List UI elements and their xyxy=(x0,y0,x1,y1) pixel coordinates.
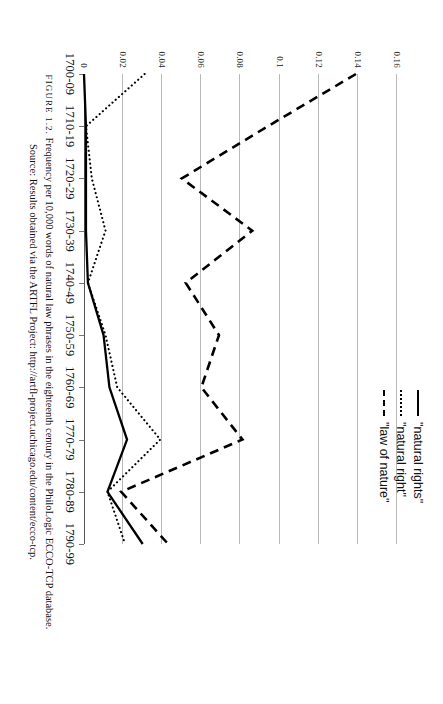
y-tick-label: 0 xyxy=(79,63,89,68)
x-tick-label: 1790-99 xyxy=(62,523,77,565)
x-tick-label: 1710-19 xyxy=(62,105,77,147)
figure-caption: FIGURE 1.2. Frequency per 10,000 words o… xyxy=(24,46,57,658)
solid-line-key-icon xyxy=(418,390,420,416)
series-lines xyxy=(84,74,397,544)
x-tick-label: 1730-39 xyxy=(62,209,77,251)
figure-page: 00.020.040.060.080.10.120.140.16 1700-09… xyxy=(0,0,443,704)
y-tick-label: 0.08 xyxy=(236,51,246,68)
legend-item-law-of-nature: "law of nature" xyxy=(376,390,393,503)
x-tick-label: 1720-29 xyxy=(62,157,77,199)
figure: 00.020.040.060.080.10.120.140.16 1700-09… xyxy=(0,0,443,704)
series-line-dotted xyxy=(86,74,160,544)
caption-line-2: Source: Results obtained via the ARTFL P… xyxy=(24,46,40,658)
y-tick-label: 0.06 xyxy=(196,51,206,68)
legend-item-natural-right: "natural right" xyxy=(393,390,410,503)
x-tick xyxy=(79,544,84,545)
x-tick-label: 1780-89 xyxy=(62,471,77,513)
chart-plot-area: 00.020.040.060.080.10.120.140.16 1700-09… xyxy=(84,74,397,544)
caption-line-1: Frequency per 10,000 words of natural la… xyxy=(44,138,55,630)
legend-label: "natural right" xyxy=(395,422,409,497)
y-tick-label: 0.1 xyxy=(275,56,285,68)
rotated-figure-wrapper: 00.020.040.060.080.10.120.140.16 1700-09… xyxy=(0,0,443,704)
x-tick-label: 1770-79 xyxy=(62,418,77,460)
x-tick-label: 1750-59 xyxy=(62,314,77,356)
legend-label: "law of nature" xyxy=(378,422,392,502)
dashed-line-key-icon xyxy=(384,390,386,416)
y-tick-label: 0.04 xyxy=(157,51,167,68)
x-tick-label: 1760-69 xyxy=(62,366,77,408)
series-line-solid xyxy=(84,74,143,544)
dotted-line-key-icon xyxy=(401,390,403,416)
y-tick-label: 0.16 xyxy=(392,51,402,68)
y-tick-label: 0.12 xyxy=(314,51,324,68)
series-line-dashed xyxy=(121,74,356,544)
chart-legend: "natural rights" "natural right" "law of… xyxy=(376,390,427,503)
legend-item-natural-rights: "natural rights" xyxy=(410,390,427,503)
y-tick-label: 0.02 xyxy=(118,51,128,68)
x-tick-label: 1740-49 xyxy=(62,262,77,304)
x-tick-label: 1700-09 xyxy=(62,53,77,95)
legend-label: "natural rights" xyxy=(412,422,426,503)
figure-number: FIGURE 1.2. xyxy=(44,75,54,135)
y-tick-label: 0.14 xyxy=(353,51,363,68)
